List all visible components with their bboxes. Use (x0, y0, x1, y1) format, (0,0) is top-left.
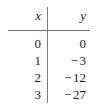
column-header-x: x (0, 7, 41, 24)
cell-x-value: 1 (0, 52, 41, 69)
table-row: 0 0 (0, 35, 98, 52)
cell-y-magnitude: 12 (73, 70, 86, 85)
minus-sign: − (71, 52, 78, 69)
cell-y-value: −27 (52, 86, 86, 103)
table-row: 3 −27 (0, 86, 98, 103)
column-header-y: y (52, 7, 86, 24)
cell-x-value: 0 (0, 35, 41, 52)
cell-y-magnitude: 3 (80, 53, 87, 68)
cell-x-value: 2 (0, 69, 41, 86)
cell-y-magnitude: 27 (73, 87, 86, 102)
table-header-row: x y (0, 7, 98, 24)
cell-y-value: −12 (52, 69, 86, 86)
table-row: 1 −3 (0, 52, 98, 69)
cell-y-value: −3 (52, 52, 86, 69)
cell-y-value: 0 (52, 35, 86, 52)
minus-sign: − (64, 69, 71, 86)
table-row: 2 −12 (0, 69, 98, 86)
minus-sign: − (64, 86, 71, 103)
cell-y-magnitude: 0 (80, 36, 87, 51)
cell-x-value: 3 (0, 86, 41, 103)
table-grid: x y 0 0 1 −3 2 −12 3 −27 (0, 0, 98, 108)
xy-value-table: x y 0 0 1 −3 2 −12 3 −27 (0, 0, 98, 108)
